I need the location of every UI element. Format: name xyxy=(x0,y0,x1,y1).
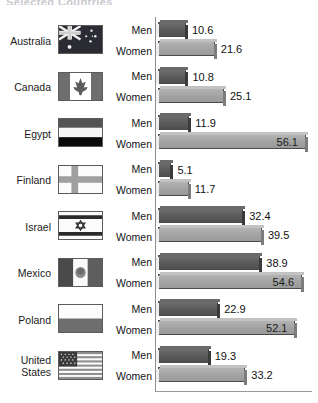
bar-right-face xyxy=(259,258,262,273)
bar-right-face xyxy=(188,184,191,199)
bar-right-face xyxy=(185,25,188,40)
series-labels: MenWomen xyxy=(104,18,152,63)
chart-row: Poland MenWomen22.952.1 xyxy=(0,297,318,342)
bar-left-notch xyxy=(156,117,159,130)
bar-left-notch xyxy=(156,369,159,382)
series-labels: MenWomen xyxy=(104,111,152,156)
series-labels: MenWomen xyxy=(104,158,152,203)
bar-right-face xyxy=(261,230,264,245)
bar-right-face xyxy=(294,323,297,338)
bar-men[interactable] xyxy=(158,301,218,316)
flag-egypt-icon xyxy=(58,118,103,147)
bar-group: 38.954.6 xyxy=(156,251,318,296)
chart-row: Israel MenWomen32.439.5 xyxy=(0,204,318,249)
bar-value-women: 25.1 xyxy=(230,88,251,105)
bar-left-notch xyxy=(156,257,159,270)
bar-top-face xyxy=(160,225,264,228)
bar-men[interactable] xyxy=(158,208,243,223)
country-label: Egypt xyxy=(0,111,53,156)
bar-men[interactable] xyxy=(158,115,189,130)
bar-value-men: 38.9 xyxy=(266,255,287,272)
series-label-men: Men xyxy=(104,113,152,134)
country-label-line1: Finland xyxy=(17,174,51,186)
bar-left-notch xyxy=(156,43,159,56)
flag-mexico-icon xyxy=(58,258,103,287)
country-label: UnitedStates xyxy=(0,344,53,389)
bar-right-face xyxy=(185,72,188,87)
bar-top-face xyxy=(160,346,211,349)
bar-right-face xyxy=(208,351,211,366)
page-title: Selected Countries xyxy=(6,0,113,5)
bar-women[interactable] xyxy=(158,367,245,382)
bar-left-notch xyxy=(156,24,159,37)
chart-page: Selected Countries Australia MenWomen10.… xyxy=(0,0,318,403)
bar-top-face xyxy=(160,365,247,368)
bar-men[interactable] xyxy=(158,162,171,177)
bar-right-face xyxy=(305,137,308,152)
bar-top-face xyxy=(160,179,191,182)
bar-value-men: 10.8 xyxy=(192,69,213,86)
series-label-men: Men xyxy=(104,206,152,227)
series-label-women: Women xyxy=(104,41,152,62)
bar-women[interactable] xyxy=(158,88,224,103)
bar-group: 10.825.1 xyxy=(156,65,318,110)
bar-value-men: 5.1 xyxy=(177,162,192,179)
country-label-line1: Poland xyxy=(18,314,51,326)
bar-top-face xyxy=(160,299,220,302)
chart-row: Finland MenWomen5.111.7 xyxy=(0,158,318,203)
bar-men[interactable] xyxy=(158,69,186,84)
bar-left-notch xyxy=(156,183,159,196)
bar-women[interactable] xyxy=(158,41,215,56)
series-labels: MenWomen xyxy=(104,65,152,110)
bar-value-women: 21.6 xyxy=(221,41,242,58)
bar-men[interactable] xyxy=(158,348,209,363)
bar-right-face xyxy=(301,277,304,292)
bar-right-face xyxy=(242,211,245,226)
bar-value-women: 11.7 xyxy=(195,181,216,198)
country-label-line1: Egypt xyxy=(24,128,51,140)
bar-women[interactable] xyxy=(158,227,262,242)
bar-value-women: 56.1 xyxy=(277,134,298,151)
bar-value-men: 32.4 xyxy=(249,208,270,225)
bar-right-face xyxy=(223,91,226,106)
bar-right-face xyxy=(214,44,217,59)
country-label: Mexico xyxy=(0,251,53,296)
country-label: Australia xyxy=(0,18,53,63)
bar-group: 10.621.6 xyxy=(156,18,318,63)
bar-men[interactable] xyxy=(158,255,260,270)
series-label-men: Men xyxy=(104,345,152,366)
country-label: Finland xyxy=(0,158,53,203)
bar-top-face xyxy=(160,86,226,89)
flag-canada-icon xyxy=(58,72,103,101)
bar-right-face xyxy=(244,370,247,385)
bar-left-notch xyxy=(156,136,159,149)
bar-left-notch xyxy=(156,276,159,289)
bar-top-face xyxy=(160,113,191,116)
flag-australia-icon xyxy=(58,25,103,54)
bar-left-notch xyxy=(156,303,159,316)
country-label-line1: Israel xyxy=(25,221,51,233)
bar-value-women: 39.5 xyxy=(268,227,289,244)
bar-men[interactable] xyxy=(158,22,186,37)
country-label-line2: States xyxy=(21,366,51,378)
bar-group: 5.111.7 xyxy=(156,158,318,203)
country-label-line1: Australia xyxy=(10,35,51,47)
flag-finland-icon xyxy=(58,165,103,194)
series-label-men: Men xyxy=(104,159,152,180)
series-label-men: Men xyxy=(104,299,152,320)
country-label: Israel xyxy=(0,204,53,249)
flag-israel-icon xyxy=(58,211,103,240)
bar-left-notch xyxy=(156,90,159,103)
bar-top-face xyxy=(160,39,217,42)
chart-row: Canada MenWomen10.825.1 xyxy=(0,65,318,110)
bar-top-face xyxy=(160,253,262,256)
bar-left-notch xyxy=(156,210,159,223)
series-label-men: Men xyxy=(104,66,152,87)
country-label-line1: Canada xyxy=(14,81,51,93)
bar-group: 11.956.1 xyxy=(156,111,318,156)
bar-left-notch xyxy=(156,229,159,242)
series-label-women: Women xyxy=(104,320,152,341)
series-label-men: Men xyxy=(104,252,152,273)
bar-value-women: 54.6 xyxy=(273,274,294,291)
bar-women[interactable] xyxy=(158,181,189,196)
